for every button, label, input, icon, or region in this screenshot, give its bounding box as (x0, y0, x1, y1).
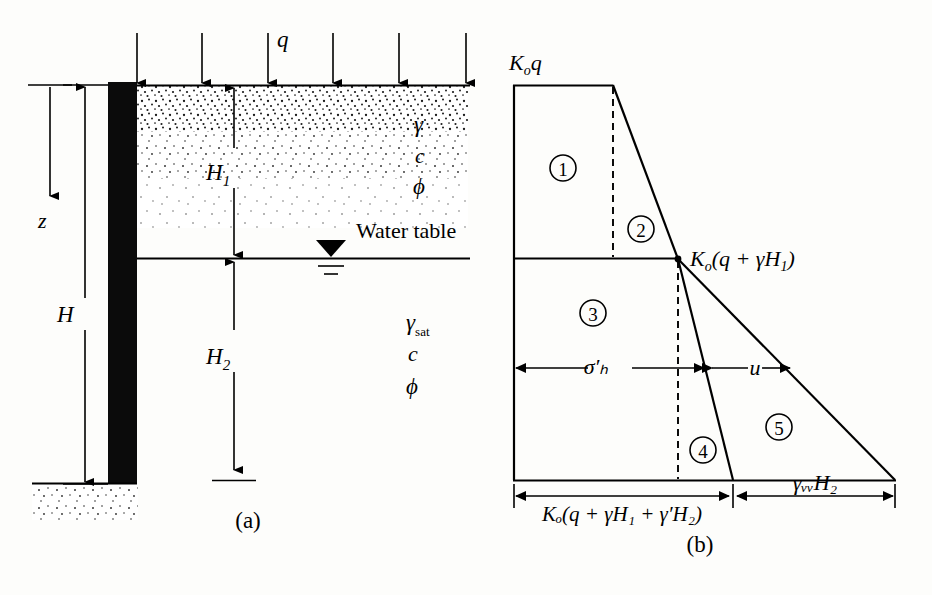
ko-q-label: Koq (508, 50, 542, 78)
diagram-a: q z H H1 Water table (28, 27, 470, 533)
region-5-number: 5 (774, 418, 784, 439)
foundation-soil (32, 484, 138, 521)
region-marker-5: 5 (766, 414, 792, 440)
caption-a: (a) (235, 508, 261, 533)
upper-soil-friction-angle: ϕ (413, 174, 425, 199)
lower-soil-properties: γsat c ϕ (406, 310, 430, 399)
total-height-label: H (56, 302, 75, 327)
water-table-symbol (316, 240, 346, 274)
ko-q-gamma-h1-node (675, 256, 682, 263)
depth-axis-z (28, 85, 72, 196)
caption-b: (b) (687, 532, 714, 557)
ko-q-gamma-h1-label: Ko(q + γH1) (689, 246, 795, 274)
region-marker-2: 2 (628, 216, 654, 242)
lower-soil-friction-angle: ϕ (406, 374, 418, 399)
pore-pressure-label: u (750, 355, 761, 380)
region-marker-1: 1 (550, 155, 576, 181)
total-pressure-slope-line (678, 259, 895, 480)
figure-svg: q z H H1 Water table (0, 0, 932, 595)
hydrostatic-pressure-label: γᵥᵥH₂ (793, 470, 838, 495)
retaining-wall (108, 82, 137, 486)
figure-container: q z H H1 Water table (0, 0, 932, 595)
effective-stress-label: σ′ₕ (584, 354, 609, 379)
upper-soil-cohesion: c (415, 143, 425, 168)
lower-soil-cohesion: c (408, 341, 418, 366)
surcharge-label: q (277, 27, 289, 52)
total-lateral-pressure-label: Kₒ(q + γH₁ + γ′H₂) (541, 502, 702, 526)
total-height-dimension (63, 85, 108, 484)
surcharge-arrows (137, 33, 466, 83)
region-2-number: 2 (636, 220, 646, 241)
lower-soil-unit-weight: γsat (406, 310, 430, 339)
upper-soil-unit-weight: γ (414, 112, 424, 137)
water-table-label: Water table (356, 218, 456, 243)
region-marker-4: 4 (690, 437, 716, 463)
region-4-number: 4 (698, 441, 708, 462)
region-marker-3: 3 (580, 300, 606, 326)
region-3-number: 3 (588, 304, 598, 325)
diagram-b: Koq Ko(q + γH1) 1 2 3 4 5 σ′ₕ (508, 50, 896, 557)
layer2-height-dimension (212, 262, 256, 481)
layer2-height-label: H2 (205, 344, 231, 373)
region-1-number: 1 (558, 159, 568, 180)
depth-label-z: z (37, 208, 47, 233)
